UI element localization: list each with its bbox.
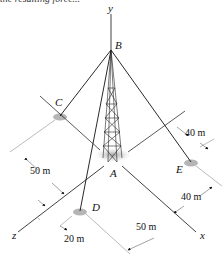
cable-bd (80, 50, 111, 211)
x-axis-label: x (200, 230, 205, 241)
dim-line-d-x (128, 238, 154, 250)
point-label-d: D (92, 202, 100, 213)
dim-line-d-z-a (60, 216, 72, 226)
dim-line-e-upper-b (200, 143, 208, 149)
cable-be (111, 50, 191, 162)
ground-line-e (128, 111, 185, 152)
dim-ext-e (196, 166, 222, 186)
dim-line-e-lower (200, 187, 212, 196)
dim-label-e-lower: 40 m (181, 192, 201, 202)
point-label-b: B (115, 40, 122, 51)
dim-line-e-lower-b (174, 206, 184, 213)
ground-shadow-c (53, 114, 67, 121)
dim-ext-c (10, 120, 55, 152)
dim-line-c2 (52, 183, 64, 194)
y-axis-label: y (108, 3, 113, 14)
dim-tick-z (38, 200, 45, 206)
dim-label-c-offset: 50 m (30, 166, 50, 176)
dim-label-d-z: 20 m (64, 234, 84, 244)
dim-ext-d (86, 214, 130, 254)
dim-ext-e2 (200, 139, 214, 147)
tower (103, 50, 122, 162)
dim-ext-z (38, 218, 40, 220)
dim-label-e-upper: 40 m (185, 128, 205, 138)
dim-label-d-x: 50 m (136, 222, 156, 232)
dim-line-d-z (60, 226, 67, 230)
cable-bc (60, 50, 111, 116)
ground-shadow-e (184, 160, 198, 167)
point-label-e: E (176, 164, 183, 175)
point-label-a: A (110, 168, 117, 179)
point-label-c: C (55, 97, 62, 108)
ground-line-c (40, 96, 100, 150)
caption-fragment: the resulting force... (0, 0, 80, 4)
ground-shadow-a (95, 148, 131, 162)
z-axis-label: z (12, 230, 16, 241)
